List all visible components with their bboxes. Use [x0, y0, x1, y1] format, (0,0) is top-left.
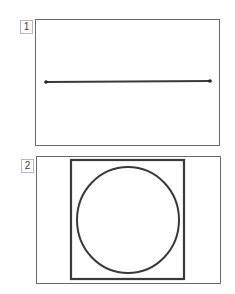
circle [77, 167, 179, 273]
line-segment [44, 79, 212, 84]
figures-canvas [0, 0, 235, 294]
line-endpoint-right [208, 79, 212, 83]
square [71, 160, 184, 279]
line-endpoint-left [44, 80, 48, 84]
